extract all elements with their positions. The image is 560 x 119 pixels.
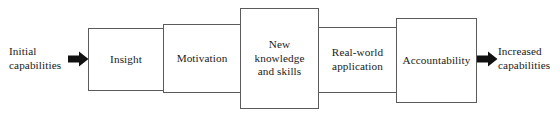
stage-label-new-knowledge-and-skills: New knowledge and skills xyxy=(252,38,308,79)
stage-box-new-knowledge-and-skills: New knowledge and skills xyxy=(240,8,319,109)
process-flow-diagram: Initial capabilities Insight Motivation … xyxy=(0,0,560,119)
stage-box-insight: Insight xyxy=(88,28,164,91)
stage-label-motivation: Motivation xyxy=(174,52,231,66)
output-arrow-icon xyxy=(477,51,498,67)
stage-box-motivation: Motivation xyxy=(163,24,241,93)
stage-box-real-world-application: Real-world application xyxy=(318,27,397,93)
output-label-increased-capabilities: Increased capabilities xyxy=(498,45,560,72)
stage-box-accountability: Accountability xyxy=(396,18,477,103)
input-arrow-icon xyxy=(68,51,89,67)
stage-label-insight: Insight xyxy=(107,53,145,67)
input-label-initial-capabilities: Initial capabilities xyxy=(9,45,69,72)
stage-label-accountability: Accountability xyxy=(400,54,474,68)
stage-label-real-world-application: Real-world application xyxy=(329,46,386,73)
